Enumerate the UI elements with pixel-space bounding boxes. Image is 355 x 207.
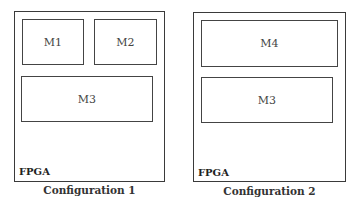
module-label: M3: [78, 93, 96, 106]
module-m3: M3: [21, 76, 153, 122]
module-m3: M3: [201, 77, 333, 123]
fpga-label: FPGA: [198, 167, 229, 178]
module-m4: M4: [201, 20, 338, 67]
module-label: M1: [44, 36, 62, 49]
module-label: M2: [116, 36, 134, 49]
fpga-label: FPGA: [19, 166, 50, 177]
module-m1: M1: [22, 19, 84, 65]
module-m2: M2: [94, 19, 157, 65]
module-label: M4: [260, 37, 278, 50]
module-label: M3: [258, 94, 276, 107]
caption-config-2: Configuration 2: [193, 185, 346, 197]
caption-config-1: Configuration 1: [14, 184, 165, 196]
